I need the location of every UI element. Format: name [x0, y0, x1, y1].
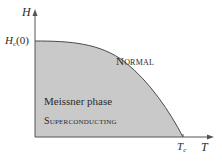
hc0-tick-label: Hc(0): [5, 35, 29, 48]
hc0-base: H: [5, 34, 13, 46]
phase-diagram: H Hc(0) Normal Meissner phase Supercondu…: [0, 0, 222, 163]
superconducting-region-label: Superconducting: [44, 116, 117, 126]
y-axis-arrow-icon: [33, 9, 38, 16]
y-axis-label: H: [22, 6, 31, 18]
tc-sub: c: [183, 146, 186, 154]
x-axis-arrow-icon: [207, 135, 214, 140]
diagram-graphic: [0, 0, 222, 163]
normal-region-label: Normal: [116, 56, 154, 67]
x-axis-label: T: [201, 141, 208, 153]
tc-tick-label: Tc: [177, 141, 186, 154]
meissner-phase-label: Meissner phase: [44, 96, 112, 107]
hc0-suffix: (0): [16, 34, 29, 46]
